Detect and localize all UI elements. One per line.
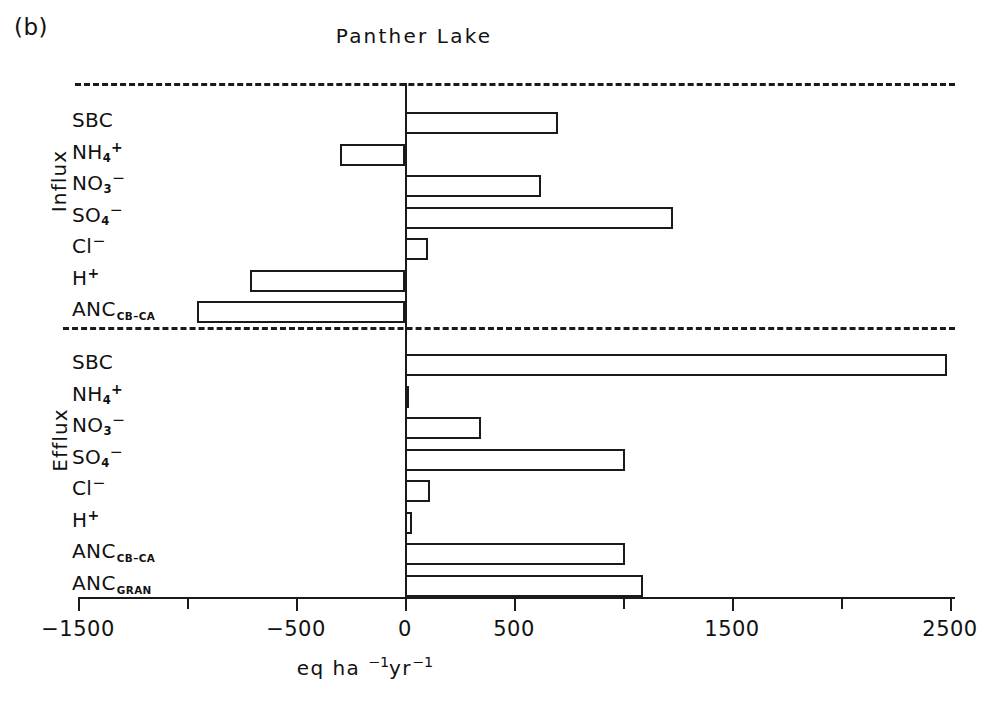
category-label: SBC xyxy=(72,352,113,372)
category-label: SO4− xyxy=(72,447,123,468)
x-axis-tick-label: 1500 xyxy=(704,617,759,641)
bar xyxy=(405,354,947,376)
plot-area: −1500−500050015002500SBCNH4+NO3−SO4−Cl−H… xyxy=(0,0,998,714)
bar xyxy=(405,575,643,597)
bar xyxy=(405,112,558,134)
x-axis-tick xyxy=(623,597,625,609)
category-label: NH4+ xyxy=(72,142,123,162)
influx-group-caption: Influx xyxy=(47,150,71,212)
bar xyxy=(405,238,428,260)
category-label: ANCCB–CA xyxy=(72,299,154,319)
category-label: SBC xyxy=(72,110,113,130)
x-axis-tick xyxy=(950,597,952,611)
efflux-group-caption: Efflux xyxy=(48,409,72,472)
middle-dashed-separator xyxy=(63,327,955,330)
bar xyxy=(405,386,409,408)
x-axis-tick xyxy=(732,597,734,611)
figure-panel: (b) Panther Lake −1500−500050015002500SB… xyxy=(0,0,998,714)
x-axis-tick-label: 500 xyxy=(493,617,535,641)
x-axis-baseline xyxy=(78,597,955,599)
bar xyxy=(405,175,541,197)
bar xyxy=(405,417,481,439)
bar xyxy=(250,270,405,292)
x-axis-tick-label: 0 xyxy=(398,617,412,641)
category-label: Cl− xyxy=(72,236,106,257)
bar xyxy=(405,512,412,534)
category-label: H+ xyxy=(72,510,99,530)
top-dashed-separator xyxy=(75,83,955,86)
category-label: NO3− xyxy=(72,173,125,194)
x-axis-tick-label: −1500 xyxy=(41,617,115,641)
category-label: SO4− xyxy=(72,205,123,226)
bar xyxy=(405,543,625,565)
category-label: H+ xyxy=(72,268,99,288)
category-label: NH4+ xyxy=(72,384,123,404)
x-axis-tick xyxy=(405,597,407,611)
bar xyxy=(197,301,405,323)
x-axis-tick xyxy=(78,597,80,611)
x-axis-tick-label: −500 xyxy=(266,617,326,641)
bar xyxy=(405,207,673,229)
category-label: ANCGRAN xyxy=(72,573,151,593)
category-label: ANCCB–CA xyxy=(72,541,154,561)
x-axis-tick xyxy=(187,597,189,609)
category-label: NO3− xyxy=(72,415,125,436)
x-axis-title: eq ha −1yr−1 xyxy=(297,654,433,680)
x-axis-tick xyxy=(514,597,516,611)
x-axis-tick xyxy=(841,597,843,609)
x-axis-tick-label: 2500 xyxy=(922,617,977,641)
bar xyxy=(405,480,430,502)
x-axis-tick xyxy=(296,597,298,611)
category-label: Cl− xyxy=(72,478,106,499)
bar xyxy=(405,449,625,471)
bar xyxy=(340,144,405,166)
